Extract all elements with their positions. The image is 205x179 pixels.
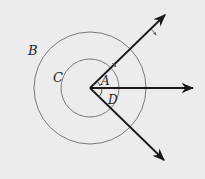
outer-arc-arrow-mark — [151, 29, 156, 35]
angle-a-arc — [97, 81, 100, 86]
ray-lower — [90, 88, 164, 160]
label-b: B — [27, 43, 38, 58]
label-d: D — [107, 93, 118, 107]
label-c: C — [53, 70, 63, 85]
angle-d-arc — [99, 88, 102, 97]
label-a: A — [100, 74, 110, 88]
angle-diagram: B C A D — [0, 0, 205, 179]
diagram-svg: B C A D — [0, 0, 205, 179]
